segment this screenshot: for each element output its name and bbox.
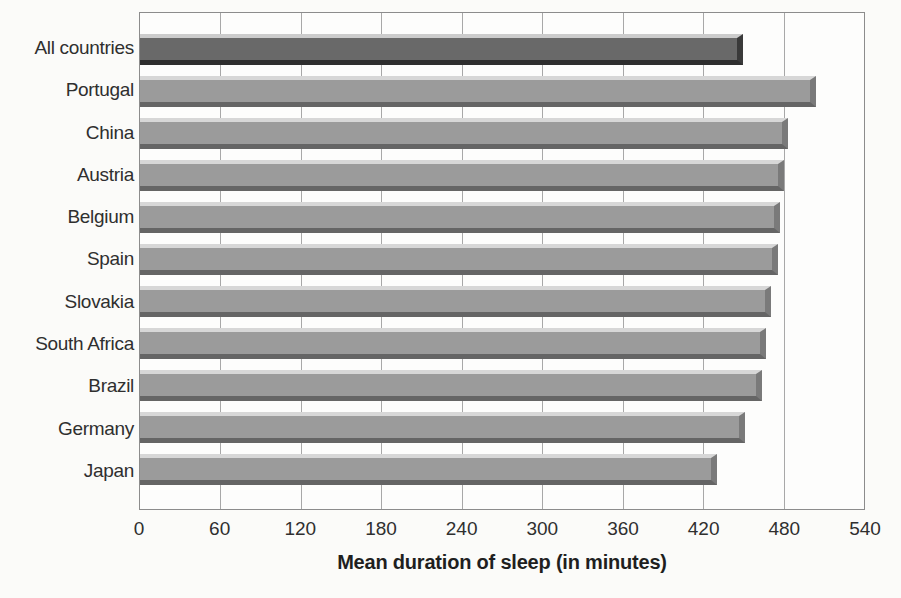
bar-row-japan: [140, 449, 864, 491]
bar-row-germany: [140, 407, 864, 449]
x-tick-label-300: 300: [526, 518, 558, 540]
category-label-japan: Japan: [0, 450, 134, 492]
bar-spain: [140, 244, 778, 275]
bar-belgium: [140, 202, 780, 233]
bar-portugal: [140, 76, 816, 107]
x-tick-label-360: 360: [607, 518, 639, 540]
x-tick-label-240: 240: [446, 518, 478, 540]
bar-row-slovakia: [140, 281, 864, 323]
category-label-slovakia: Slovakia: [0, 281, 134, 323]
category-label-portugal: Portugal: [0, 69, 134, 111]
category-label-brazil: Brazil: [0, 365, 134, 407]
bar-row-spain: [140, 238, 864, 280]
x-tick-label-120: 120: [284, 518, 316, 540]
category-label-spain: Spain: [0, 238, 134, 280]
category-axis-labels: All countriesPortugalChinaAustriaBelgium…: [0, 12, 134, 510]
bar-brazil: [140, 370, 762, 401]
plot-area: [139, 12, 865, 510]
bar-row-all-countries: [140, 28, 864, 70]
x-tick-label-480: 480: [768, 518, 800, 540]
x-tick-label-420: 420: [688, 518, 720, 540]
x-axis-tick-labels: 060120180240300360420480540: [139, 518, 865, 542]
bar-austria: [140, 160, 784, 191]
x-tick-label-0: 0: [134, 518, 145, 540]
bar-japan: [140, 454, 717, 485]
bar-row-south-africa: [140, 323, 864, 365]
x-tick-label-180: 180: [365, 518, 397, 540]
category-label-austria: Austria: [0, 154, 134, 196]
category-label-germany: Germany: [0, 407, 134, 449]
bar-south-africa: [140, 328, 766, 359]
category-label-all-countries: All countries: [0, 27, 134, 69]
sleep-duration-bar-chart: All countriesPortugalChinaAustriaBelgium…: [0, 0, 901, 598]
x-tick-label-60: 60: [209, 518, 230, 540]
bar-row-belgium: [140, 196, 864, 238]
x-tick-label-540: 540: [849, 518, 881, 540]
category-label-china: China: [0, 112, 134, 154]
x-axis-title: Mean duration of sleep (in minutes): [139, 551, 865, 574]
bar-row-brazil: [140, 365, 864, 407]
bar-row-china: [140, 112, 864, 154]
bars-layer: [140, 13, 864, 509]
bar-row-portugal: [140, 70, 864, 112]
category-label-belgium: Belgium: [0, 196, 134, 238]
bar-slovakia: [140, 286, 771, 317]
bar-row-austria: [140, 154, 864, 196]
bar-all-countries: [140, 34, 743, 65]
bar-china: [140, 118, 788, 149]
category-label-south-africa: South Africa: [0, 323, 134, 365]
bar-germany: [140, 412, 745, 443]
